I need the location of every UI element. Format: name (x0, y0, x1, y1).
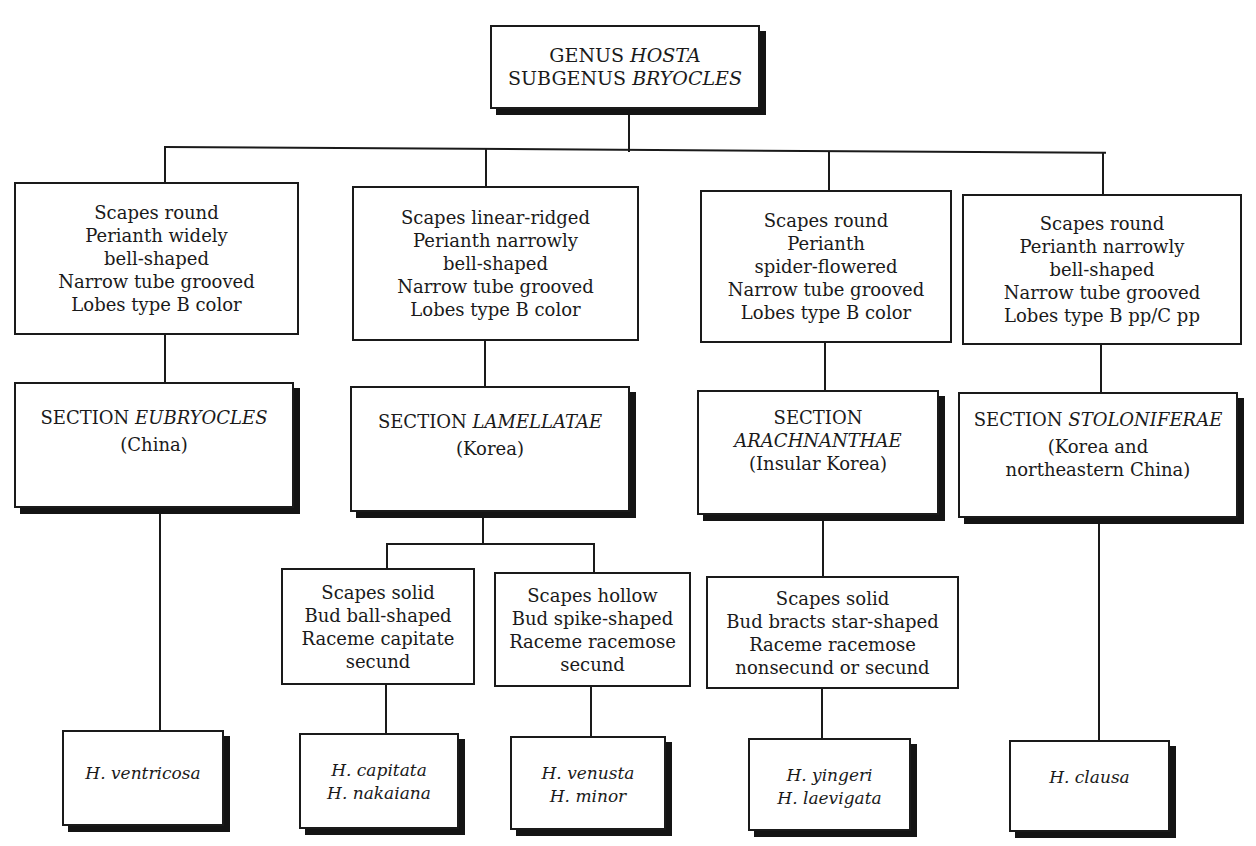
section-title: SECTION EUBRYOCLES (41, 406, 268, 429)
character-line: Narrow tube grooved (58, 270, 255, 293)
character-line: Scapes round (94, 201, 218, 224)
connector-section2-down (482, 518, 484, 544)
subcharacter-line: Bud ball-shaped (304, 604, 451, 627)
section-label: SECTION (974, 409, 1063, 430)
character-line: Scapes round (764, 209, 888, 232)
connector-section3-sub3 (822, 521, 824, 577)
character-line: Narrow tube grooved (1004, 281, 1201, 304)
character-line: bell-shaped (104, 247, 209, 270)
connector-col2-down (485, 148, 487, 187)
section-box-lamellatae: SECTION LAMELLATAE (Korea) (350, 386, 630, 512)
species-name: H. minor (550, 785, 627, 808)
species-box-venusta-minor: H. venusta H. minor (510, 736, 666, 830)
subcharacter-line: Scapes solid (321, 581, 434, 604)
subcharacter-box-2: Scapes hollow Bud spike-shaped Raceme ra… (494, 572, 691, 687)
genus-line: GENUS HOSTA (549, 44, 700, 67)
character-line: Perianth narrowly (1020, 235, 1185, 258)
connector-root-down (628, 110, 630, 152)
connector-sub3-species4 (821, 688, 823, 739)
character-line: bell-shaped (443, 252, 548, 275)
section-region: (Korea) (456, 437, 524, 460)
genus-label: GENUS (549, 44, 624, 66)
character-line: spider-flowered (754, 255, 897, 278)
subcharacter-line: Raceme racemose (749, 633, 916, 656)
character-line: Narrow tube grooved (728, 278, 925, 301)
subgenus-name: BRYOCLES (632, 67, 742, 89)
character-line: Lobes type B color (71, 293, 241, 316)
genus-box: GENUS HOSTA SUBGENUS BRYOCLES (490, 25, 760, 109)
species-name: H. yingeri (786, 764, 872, 787)
subcharacter-line: secund (560, 653, 625, 676)
species-box-yingeri-laevigata: H. yingeri H. laevigata (748, 738, 911, 831)
character-line: Narrow tube grooved (397, 275, 594, 298)
character-line: Lobes type B pp/C pp (1004, 304, 1200, 327)
connector-section1-species1 (159, 514, 161, 731)
connector-col1-down (164, 146, 166, 183)
character-line: Scapes round (1040, 212, 1164, 235)
subgenus-label: SUBGENUS (508, 67, 626, 89)
section-region: (Insular Korea) (749, 452, 887, 475)
subcharacter-line: Raceme racemose (509, 630, 676, 653)
subcharacter-line: Scapes hollow (527, 584, 657, 607)
subgenus-line: SUBGENUS BRYOCLES (508, 67, 742, 90)
species-name: H. laevigata (777, 787, 881, 810)
section-label: SECTION (774, 406, 863, 429)
section-name: LAMELLATAE (473, 411, 603, 432)
species-box-ventricosa: H. ventricosa (62, 730, 224, 826)
section-title: SECTION STOLONIFERAE (974, 408, 1223, 431)
connector-split-sub2 (593, 543, 595, 573)
subcharacter-line: Bud spike-shaped (512, 607, 673, 630)
section-region: (China) (120, 433, 188, 456)
character-line: Lobes type B color (741, 301, 911, 324)
species-name: H. nakaiana (327, 782, 431, 805)
section-label: SECTION (378, 411, 467, 432)
subcharacter-box-3: Scapes solid Bud bracts star-shaped Race… (706, 576, 959, 689)
connector-char1-section1 (164, 334, 166, 383)
section-box-eubryocles: SECTION EUBRYOCLES (China) (14, 382, 294, 508)
section-name: ARACHNANTHAE (734, 429, 901, 452)
connector-split-sub1 (386, 543, 388, 569)
species-name: H. venusta (542, 762, 635, 785)
character-box-3: Scapes round Perianth spider-flowered Na… (700, 190, 952, 343)
section-name: STOLONIFERAE (1068, 409, 1222, 430)
genus-name: HOSTA (630, 44, 701, 66)
character-box-4: Scapes round Perianth narrowly bell-shap… (962, 194, 1242, 345)
section-name: EUBRYOCLES (135, 407, 267, 428)
section-region: northeastern China) (1006, 458, 1191, 481)
character-line: Lobes type B color (410, 298, 580, 321)
subcharacter-line: Scapes solid (776, 587, 889, 610)
section-box-arachnanthae: SECTION ARACHNANTHAE (Insular Korea) (697, 390, 939, 515)
subcharacter-line: Bud bracts star-shaped (726, 610, 938, 633)
character-line: bell-shaped (1049, 258, 1154, 281)
character-line: Perianth widely (85, 224, 227, 247)
species-name: H. ventricosa (85, 762, 200, 785)
section-title: SECTION LAMELLATAE (378, 410, 602, 433)
section-label: SECTION (41, 407, 130, 428)
subcharacter-box-1: Scapes solid Bud ball-shaped Raceme capi… (281, 568, 475, 685)
species-box-capitata-nakaiana: H. capitata H. nakaiana (299, 733, 459, 829)
character-box-2: Scapes linear-ridged Perianth narrowly b… (352, 186, 639, 341)
connector-char3-section3 (824, 342, 826, 391)
section-region: (Korea and (1048, 435, 1148, 458)
connector-section4-species5 (1098, 524, 1100, 741)
connector-char4-section4 (1100, 344, 1102, 393)
subcharacter-line: nonsecund or secund (735, 656, 929, 679)
connector-sub1-species2 (385, 684, 387, 734)
connector-sub2-species3 (590, 686, 592, 737)
species-name: H. capitata (331, 759, 427, 782)
connector-char2-section2 (484, 340, 486, 387)
species-box-clausa: H. clausa (1009, 740, 1170, 832)
subcharacter-line: secund (346, 650, 411, 673)
character-line: Perianth (787, 232, 864, 255)
section-box-stoloniferae: SECTION STOLONIFERAE (Korea and northeas… (958, 392, 1238, 518)
character-box-1: Scapes round Perianth widely bell-shaped… (14, 182, 299, 335)
character-line: Perianth narrowly (413, 229, 578, 252)
connector-section2-split (386, 543, 595, 545)
connector-col3-down (828, 152, 830, 191)
species-name: H. clausa (1049, 766, 1130, 789)
subcharacter-line: Raceme capitate (302, 627, 455, 650)
connector-top-bar (164, 146, 1106, 154)
character-line: Scapes linear-ridged (401, 206, 590, 229)
connector-col4-down (1102, 153, 1104, 195)
